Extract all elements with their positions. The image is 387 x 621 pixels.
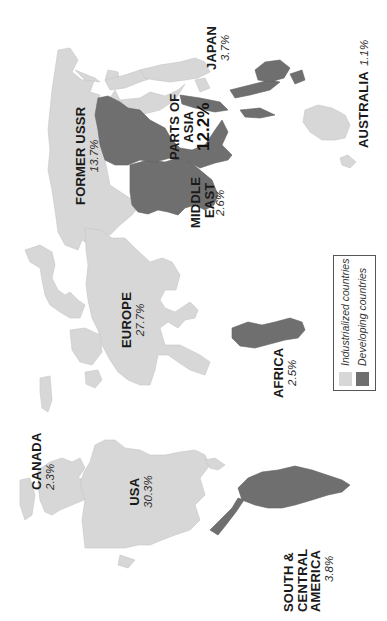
legend-swatch-industrialized: [339, 372, 352, 386]
region-share: 2.3%: [44, 432, 56, 490]
iceland-shape: [40, 376, 52, 412]
region-share: 1.1%: [358, 40, 370, 66]
central-america-shape: [210, 498, 244, 535]
region-share: 13.7%: [88, 107, 100, 205]
korea-shape: [195, 78, 210, 92]
region-name: FORMER USSR: [74, 107, 88, 205]
region-name: USA: [128, 475, 142, 508]
alaska-shape: [118, 555, 135, 568]
philippines-shape: [255, 60, 290, 82]
region-name-line: ASIA: [182, 94, 196, 160]
region-label-former-ussr: FORMER USSR 13.7%: [74, 107, 100, 205]
region-name-line: SOUTH &: [282, 548, 296, 612]
philippines-shape: [290, 70, 305, 84]
region-label-canada: CANADA 2.3%: [30, 432, 56, 490]
region-label-parts-of-asia: PARTS OF ASIA 12.2%: [168, 94, 213, 160]
indonesia-shape: [240, 108, 275, 118]
africa-shape: [232, 318, 305, 348]
world-map-figure: CANADA 2.3% USA 30.3% SOUTH & CENTRAL AM…: [0, 0, 387, 621]
region-label-africa: AFRICA 2.5%: [272, 348, 298, 398]
region-name-line: PARTS OF: [168, 94, 182, 160]
ireland-shape: [85, 370, 102, 388]
region-share: 3.7%: [219, 26, 231, 70]
legend-label-developing: Developing countries: [356, 268, 368, 366]
south-america-shape: [238, 466, 350, 508]
region-name: JAPAN: [205, 26, 219, 70]
region-label-usa: USA 30.3%: [128, 475, 154, 508]
region-name: EUROPE: [120, 292, 134, 348]
region-share: 12.2%: [195, 94, 213, 160]
region-label-middle-east: MIDDLE EAST 2.6%: [189, 177, 226, 228]
region-label-australia: AUSTRALIA 1.1%: [357, 40, 371, 148]
legend-swatch-developing: [356, 372, 369, 386]
region-name: CANADA: [30, 432, 44, 490]
region-name-line: AMERICA: [309, 548, 323, 612]
europe-shape: [85, 228, 210, 385]
japan-shape: [140, 58, 210, 82]
legend-label-industrialized: Industrialized countries: [339, 259, 351, 366]
region-name-line: MIDDLE: [189, 177, 203, 228]
region-share: 3.8%: [323, 548, 335, 612]
region-label-south-central-america: SOUTH & CENTRAL AMERICA 3.8%: [282, 548, 335, 612]
region-name: AFRICA: [272, 348, 286, 398]
indonesia-shape: [230, 80, 280, 98]
british-isles-shape: [70, 328, 102, 365]
australia-shape: [303, 105, 350, 140]
region-share: 30.3%: [142, 475, 154, 508]
scandinavia-shape: [25, 245, 85, 318]
region-name: AUSTRALIA: [357, 71, 371, 148]
region-share: 27.7%: [134, 292, 146, 348]
map-legend: Industrialized countries Developing coun…: [333, 255, 376, 391]
new-zealand-shape: [340, 155, 356, 168]
region-share: 2.5%: [286, 348, 298, 398]
region-label-japan: JAPAN 3.7%: [205, 26, 231, 70]
region-label-europe: EUROPE 27.7%: [120, 292, 146, 348]
florida-shape: [205, 458, 225, 470]
region-name-line: CENTRAL: [296, 548, 310, 612]
